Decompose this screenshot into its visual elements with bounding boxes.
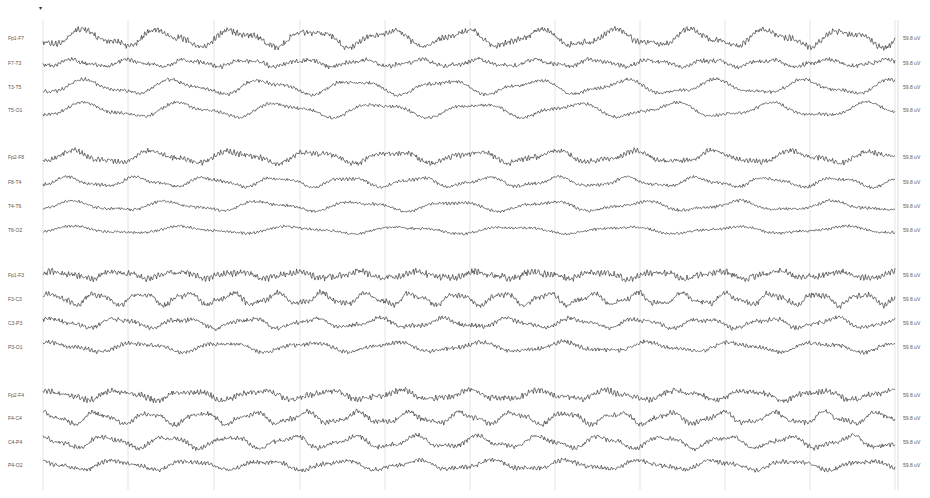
eeg-trace [43, 57, 895, 69]
channel-label[interactable]: T6-O2 [8, 227, 38, 233]
channel-scale-value: 59.8 uV [903, 84, 920, 90]
eeg-trace [43, 199, 895, 213]
channel-label[interactable]: Fp2-F4 [8, 392, 38, 398]
channel-scale-value: 59.8 uV [903, 415, 920, 421]
channel-scale-value: 59.8 uV [903, 392, 920, 398]
channel-scale-value: 59.8 uV [903, 272, 920, 278]
eeg-trace [43, 175, 895, 188]
channel-label[interactable]: Fp1-F7 [8, 35, 38, 41]
eeg-trace [43, 77, 895, 96]
channel-scale-value: 59.8 uV [903, 60, 920, 66]
channel-label[interactable]: P4-O2 [8, 462, 38, 468]
time-gridlines [43, 20, 895, 490]
channel-label[interactable]: Fp1-F3 [8, 272, 38, 278]
channel-label[interactable]: F8-T4 [8, 179, 38, 185]
channel-scale-value: 59.8 uV [903, 227, 920, 233]
eeg-trace [43, 290, 895, 309]
channel-scale-value: 59.8 uV [903, 154, 920, 160]
eeg-trace [43, 101, 895, 119]
channel-scale-value: 59.8 uV [903, 320, 920, 326]
channel-scale-value: 59.8 uV [903, 344, 920, 350]
channel-scale-value: 59.8 uV [903, 203, 920, 209]
eeg-trace [43, 409, 895, 427]
channel-scale-value: 59.8 uV [903, 107, 920, 113]
channel-label[interactable]: T4-T6 [8, 203, 38, 209]
channel-label[interactable]: C4-P4 [8, 439, 38, 445]
eeg-trace [43, 433, 895, 451]
channel-scale-value: 59.8 uV [903, 179, 920, 185]
channel-label[interactable]: T3-T5 [8, 84, 38, 90]
channel-scale-value: 59.8 uV [903, 296, 920, 302]
eeg-trace [43, 148, 895, 166]
channel-label[interactable]: F3-C3 [8, 296, 38, 302]
channel-label[interactable]: F7-T3 [8, 60, 38, 66]
channel-label[interactable]: Fp2-F8 [8, 154, 38, 160]
eeg-trace-canvas[interactable] [0, 0, 930, 498]
channel-label[interactable]: F4-C4 [8, 415, 38, 421]
eeg-trace [43, 387, 895, 403]
channel-label[interactable]: P3-O1 [8, 344, 38, 350]
eeg-trace [43, 268, 895, 282]
channel-label[interactable]: T5-O1 [8, 107, 38, 113]
eeg-trace [43, 339, 895, 354]
eeg-trace [43, 458, 895, 472]
time-cursor-marker-icon[interactable]: ▾ [39, 4, 42, 11]
eeg-trace [43, 26, 895, 50]
channel-label[interactable]: C3-P3 [8, 320, 38, 326]
channel-scale-value: 59.8 uV [903, 462, 920, 468]
channel-scale-value: 59.8 uV [903, 439, 920, 445]
channel-scale-value: 59.8 uV [903, 35, 920, 41]
eeg-traces [43, 26, 895, 472]
eeg-trace [43, 225, 895, 235]
eeg-trace [43, 316, 895, 331]
